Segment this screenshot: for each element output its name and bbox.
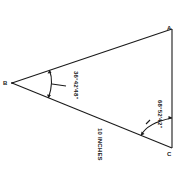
- side-ba: [12, 29, 172, 83]
- side-bc: [12, 83, 172, 148]
- vertex-label-a: A: [167, 25, 171, 31]
- angle-b-leader: [52, 84, 66, 86]
- angle-b-label: 36°42'48": [73, 71, 79, 100]
- vertex-label-c: C: [167, 151, 171, 157]
- side-bc-length-label: 10 INCHES: [97, 128, 103, 161]
- triangle-diagram: [0, 0, 178, 175]
- vertex-label-b: B: [3, 80, 7, 86]
- vertex-b-dot: [11, 82, 13, 84]
- angle-c-leader: [146, 120, 150, 124]
- angle-c-label: 68°52'42": [157, 100, 163, 129]
- angle-b-arc: [49, 70, 52, 98]
